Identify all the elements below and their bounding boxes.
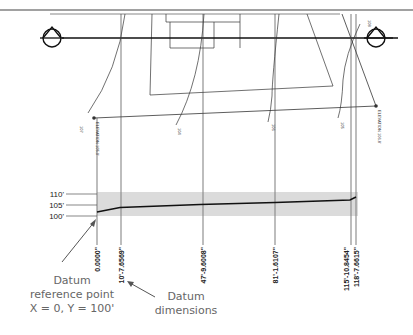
contour-label: 107 [79,126,84,133]
section-marker-right-icon [364,27,393,47]
contour-104 [176,14,204,125]
station-label: 47'-9.6008" [200,247,207,284]
station-label: 0.0000" [94,247,101,272]
datum-reference-line3: X = 0, Y = 100' [30,302,115,315]
benchmark-label-right: ELEVATION 106.8' [377,110,382,144]
datum-reference-arrow-icon [62,219,96,262]
datum-dimensions-arrow-icon [127,281,155,297]
contour-label: 105 [340,122,345,129]
datum-dimensions-line2: dimensions [155,304,218,317]
elevation-label-110: 110' [50,190,65,199]
contour-label: 106 [271,124,276,131]
datum-dimensions-line1: Datum [167,290,204,303]
benchmark-left-icon [92,116,96,120]
section-marker-left-icon [40,27,64,47]
elevation-label-100: 100' [49,212,64,221]
datum-reference-line2: reference point [30,288,115,301]
site-section-drawing: 107 104 106 105 108 ELEVATION 105.0' ELE… [0,0,413,335]
lot-line-right [342,14,376,106]
benchmark-line [94,106,376,118]
lot-outline [150,14,333,95]
datum-reference-line1: Datum [53,274,90,287]
station-dimension-labels: 0.0000"10'-7.6569"47'-9.6008"81'-1.6107"… [94,247,360,291]
contour-label: 108 [367,20,372,27]
building-outline [166,14,214,48]
benchmark-right-icon [374,104,378,108]
benchmark-label-left: ELEVATION 105.0' [95,122,100,156]
station-label: 118'-7.6615" [353,247,360,287]
contour-107 [88,14,125,113]
station-label: 115'-10.8454" [343,247,350,291]
station-label: 81'-1.6107" [272,247,279,284]
elevation-label-105: 105' [49,201,64,210]
station-label: 10'-7.6569" [118,247,125,284]
contour-106 [268,14,279,122]
station-lines [97,14,356,245]
contour-label: 104 [177,128,182,135]
